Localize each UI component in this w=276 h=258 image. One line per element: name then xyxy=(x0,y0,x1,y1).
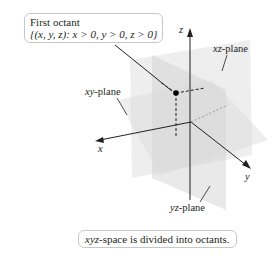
point-marker xyxy=(173,90,179,96)
y-arrow-icon xyxy=(242,160,251,169)
z-axis-label: z xyxy=(179,24,183,35)
y-axis-label: y xyxy=(245,171,250,182)
caption-box: xyz-space is divided into octants. xyxy=(78,230,237,248)
octants-figure: First octant {(x, y, z): x > 0, y > 0, z… xyxy=(0,0,276,258)
first-octant-callout: First octant {(x, y, z): x > 0, y > 0, z… xyxy=(24,13,163,43)
callout-title: First octant xyxy=(30,16,157,28)
callout-set-notation: {(x, y, z): x > 0, y > 0, z > 0} xyxy=(30,28,157,40)
x-axis-label: x xyxy=(98,143,103,154)
xy-plane-label: xy-plane xyxy=(85,86,121,97)
yz-plane-label: yz-plane xyxy=(170,202,205,213)
xz-plane-label: xz-plane xyxy=(213,43,248,54)
z-arrow-icon xyxy=(187,28,193,37)
